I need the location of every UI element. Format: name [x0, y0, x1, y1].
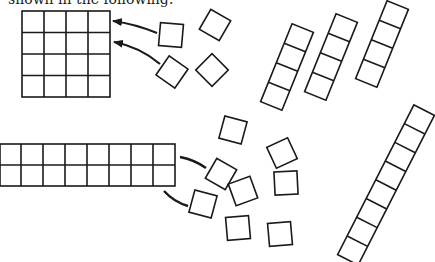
tile — [196, 54, 229, 87]
strip-4-cells — [356, 1, 409, 87]
motion-arc — [164, 191, 188, 206]
strip-4-cells — [305, 14, 358, 100]
tile — [274, 171, 298, 195]
arrow-icon — [113, 21, 157, 33]
strip-8-cells — [338, 105, 435, 262]
tile — [199, 9, 230, 40]
tile — [156, 56, 188, 88]
motion-arc — [180, 157, 206, 168]
square-grid-4x4 — [22, 11, 110, 97]
rect-grid-2x8 — [0, 144, 175, 186]
loose-tiles — [156, 9, 298, 246]
strip-4-cells — [261, 24, 314, 110]
tile — [189, 190, 217, 218]
tile — [267, 138, 298, 169]
tile — [205, 158, 236, 189]
tile — [226, 216, 251, 241]
tile — [228, 176, 257, 205]
tiles-diagram — [0, 0, 435, 262]
tile — [159, 23, 184, 48]
tile — [219, 116, 247, 144]
arrow-icon — [114, 42, 160, 64]
tile — [268, 222, 293, 247]
